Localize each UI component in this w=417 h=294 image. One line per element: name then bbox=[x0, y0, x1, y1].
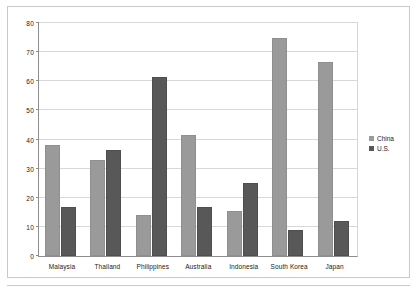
plot-area: 01020304050607080 MalaysiaThailandPhilip… bbox=[38, 22, 358, 257]
bar-thailand-china bbox=[90, 160, 105, 256]
y-axis-tick-label: 80 bbox=[26, 20, 34, 27]
y-axis-tick-label: 30 bbox=[26, 165, 34, 172]
legend-label: China bbox=[377, 135, 394, 142]
bar-group: Australia bbox=[175, 23, 220, 256]
bar-japan-us bbox=[334, 221, 349, 256]
bar-indonesia-us bbox=[243, 183, 258, 256]
y-axis-tick-label: 50 bbox=[26, 107, 34, 114]
y-axis-tick-label: 10 bbox=[26, 223, 34, 230]
legend-swatch-icon bbox=[369, 146, 374, 151]
bar-group: Indonesia bbox=[221, 23, 266, 256]
bar-thailand-us bbox=[106, 150, 121, 256]
bar-group: Malaysia bbox=[39, 23, 84, 256]
y-axis-tick-label: 0 bbox=[30, 253, 34, 260]
y-axis-tick-label: 20 bbox=[26, 194, 34, 201]
y-axis-tick-label: 70 bbox=[26, 49, 34, 56]
bar-australia-us bbox=[197, 207, 212, 257]
chart-legend: ChinaU.S. bbox=[369, 133, 394, 153]
bar-indonesia-china bbox=[227, 211, 242, 256]
bar-group: South Korea bbox=[266, 23, 311, 256]
legend-item: U.S. bbox=[369, 143, 394, 153]
bar-south-korea-us bbox=[288, 230, 303, 256]
bar-chart-figure: 01020304050607080 MalaysiaThailandPhilip… bbox=[0, 0, 417, 294]
bar-australia-china bbox=[181, 135, 196, 256]
bar-philippines-china bbox=[136, 215, 151, 256]
bar-philippines-us bbox=[152, 77, 167, 256]
bar-south-korea-china bbox=[272, 38, 287, 256]
bar-malaysia-china bbox=[45, 145, 60, 256]
y-axis-tick-label: 40 bbox=[26, 136, 34, 143]
y-axis-tick-label: 60 bbox=[26, 78, 34, 85]
x-axis-category-label: Japan bbox=[304, 263, 366, 270]
legend-label: U.S. bbox=[377, 145, 390, 152]
bar-malaysia-us bbox=[61, 207, 76, 257]
bar-group: Philippines bbox=[130, 23, 175, 256]
legend-swatch-icon bbox=[369, 136, 374, 141]
legend-item: China bbox=[369, 133, 394, 143]
bar-group: Thailand bbox=[84, 23, 129, 256]
bar-group: Japan bbox=[312, 23, 357, 256]
figure-baseline-rule bbox=[7, 285, 410, 286]
bars-layer: MalaysiaThailandPhilippinesAustraliaIndo… bbox=[39, 23, 357, 256]
bar-japan-china bbox=[318, 62, 333, 256]
